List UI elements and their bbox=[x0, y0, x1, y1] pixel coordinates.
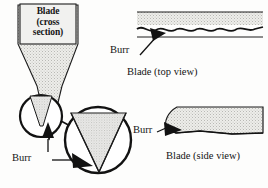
cross-section-label: Blade (cross section) bbox=[24, 6, 72, 38]
caption-side-view: Blade (side view) bbox=[166, 150, 240, 161]
burr-leader-top bbox=[140, 28, 166, 55]
burr-label-top-view: Burr bbox=[110, 44, 129, 55]
cross-section-label-line2: (cross bbox=[24, 17, 72, 28]
blade-burr-diagram: Blade (cross section) Burr Burr Blade (t… bbox=[0, 0, 268, 188]
burr-label-side-view: Burr bbox=[133, 124, 152, 135]
burr-label-cross-section: Burr bbox=[12, 152, 31, 163]
caption-top-view: Blade (top view) bbox=[127, 66, 198, 77]
cross-section-label-line1: Blade bbox=[24, 6, 72, 17]
cross-section-label-line3: section) bbox=[24, 27, 72, 38]
